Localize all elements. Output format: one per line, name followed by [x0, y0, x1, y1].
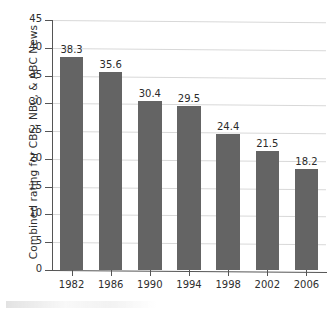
- y-tick: [45, 214, 52, 215]
- y-axis-line: [52, 20, 53, 271]
- x-tick: [267, 270, 268, 276]
- bar-value-label: 38.3: [49, 44, 95, 55]
- y-tick-label: 25: [0, 124, 42, 135]
- y-tick-label: 5: [0, 235, 42, 246]
- page-edge-artifact: [6, 301, 156, 308]
- y-tick-label: 0: [0, 263, 42, 274]
- x-tick: [111, 270, 112, 276]
- bar-value-label: 18.2: [283, 156, 329, 167]
- bar: [60, 57, 83, 270]
- x-tick-label: 2006: [283, 279, 329, 290]
- x-tick: [150, 270, 151, 276]
- y-axis-title: Combined rating for CBS, NBC, & ABC News: [27, 17, 39, 267]
- y-tick: [45, 159, 52, 160]
- bar: [138, 101, 161, 270]
- gridline: [52, 76, 326, 79]
- y-tick: [45, 187, 52, 188]
- x-tick: [306, 270, 307, 276]
- x-tick: [189, 270, 190, 276]
- bar-value-label: 21.5: [244, 138, 290, 149]
- y-tick-label: 30: [0, 96, 42, 107]
- gridline: [52, 20, 326, 23]
- bar: [99, 72, 122, 270]
- y-tick-label: 10: [0, 207, 42, 218]
- x-tick: [228, 270, 229, 276]
- y-tick: [45, 20, 52, 21]
- bar-value-label: 24.4: [205, 121, 251, 132]
- y-tick: [45, 76, 52, 77]
- bar-value-label: 35.6: [88, 59, 134, 70]
- y-tick: [45, 242, 52, 243]
- y-tick-label: 15: [0, 180, 42, 191]
- y-tick-label: 40: [0, 41, 42, 52]
- y-tick: [45, 131, 52, 132]
- y-tick: [45, 270, 52, 271]
- x-tick: [72, 270, 73, 276]
- bar: [177, 106, 200, 270]
- bar: [216, 134, 239, 270]
- y-tick-label: 45: [0, 13, 42, 24]
- bar-value-label: 29.5: [166, 93, 212, 104]
- y-tick-label: 35: [0, 69, 42, 80]
- y-tick-label: 20: [0, 152, 42, 163]
- bar: [256, 151, 279, 270]
- bar-chart: Combined rating for CBS, NBC, & ABC News…: [0, 0, 334, 312]
- bar: [295, 169, 318, 270]
- y-tick: [45, 103, 52, 104]
